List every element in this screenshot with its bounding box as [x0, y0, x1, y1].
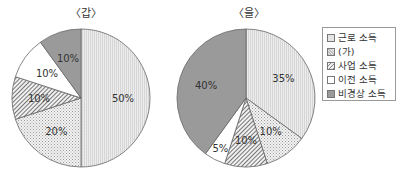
- legend-label: 이전 소득: [338, 73, 377, 87]
- pie-chart-eul: 35%10%10%5%40%: [177, 29, 315, 167]
- swatch-business-icon: [327, 62, 335, 70]
- swatch-irregular-icon: [327, 90, 335, 98]
- slice-label: 10%: [235, 135, 257, 146]
- legend: 근로 소득 (가) 사업 소득 이전 소득 비경상 소득: [322, 27, 396, 101]
- slice-label: 40%: [195, 80, 217, 91]
- slice-label: 10%: [260, 126, 282, 137]
- legend-label: (가): [338, 45, 354, 59]
- pie-chart-gap: 50%20%10%10%10%: [12, 29, 150, 167]
- slice-label: 35%: [272, 73, 294, 84]
- pie-charts: 50%20%10%10%10% 35%10%10%5%40%: [0, 0, 320, 182]
- slice-label: 10%: [57, 53, 79, 64]
- legend-item-ga: (가): [327, 45, 391, 59]
- legend-label: 근로 소득: [338, 31, 377, 45]
- slice-label: 20%: [45, 126, 67, 137]
- swatch-transfer-icon: [327, 76, 335, 84]
- slice-label: 5%: [212, 143, 228, 154]
- slice-label: 10%: [28, 93, 50, 104]
- swatch-labor-icon: [327, 34, 335, 42]
- slice-label: 50%: [112, 93, 134, 104]
- legend-label: 사업 소득: [338, 59, 377, 73]
- swatch-ga-icon: [327, 48, 335, 56]
- legend-item-business-income: 사업 소득: [327, 59, 391, 73]
- legend-item-labor-income: 근로 소득: [327, 31, 391, 45]
- legend-item-transfer-income: 이전 소득: [327, 73, 391, 87]
- legend-item-irregular-income: 비경상 소득: [327, 87, 391, 101]
- legend-label: 비경상 소득: [338, 87, 386, 101]
- slice-label: 10%: [36, 68, 58, 79]
